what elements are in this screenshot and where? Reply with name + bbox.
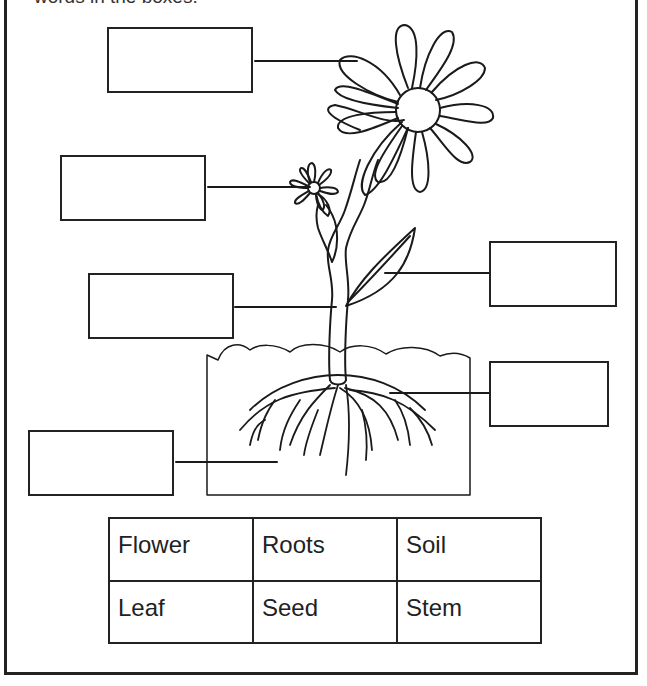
large-flower-petals [328,25,493,195]
stem-bottom [330,380,346,385]
word-bank-table: Flower Roots Soil Leaf Seed Stem [108,517,542,644]
label-box-seed[interactable] [60,155,206,221]
word-bank-row: Leaf Seed Stem [109,581,541,644]
word-bank-row: Flower Roots Soil [109,518,541,581]
small-flower-petals [290,163,338,216]
word-soil: Soil [397,518,541,581]
label-box-stem[interactable] [88,273,234,339]
word-stem: Stem [397,581,541,644]
label-box-roots[interactable] [489,361,609,427]
label-box-leaf[interactable] [489,241,617,307]
word-seed: Seed [253,581,397,644]
roots [240,375,435,475]
label-box-flower[interactable] [107,27,253,93]
word-leaf: Leaf [109,581,253,644]
word-roots: Roots [253,518,397,581]
label-box-soil[interactable] [28,430,174,496]
word-flower: Flower [109,518,253,581]
soil-outline [207,345,470,496]
